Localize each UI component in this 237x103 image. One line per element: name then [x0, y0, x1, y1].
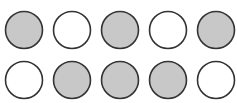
filled-circle [198, 12, 235, 49]
filled-circle [54, 62, 91, 99]
filled-circle [102, 12, 139, 49]
circle-grid [0, 0, 237, 103]
filled-circle [6, 12, 43, 49]
empty-circle [198, 62, 235, 99]
filled-circle [102, 62, 139, 99]
empty-circle [6, 62, 43, 99]
empty-circle [54, 12, 91, 49]
empty-circle [150, 12, 187, 49]
filled-circle [150, 62, 187, 99]
